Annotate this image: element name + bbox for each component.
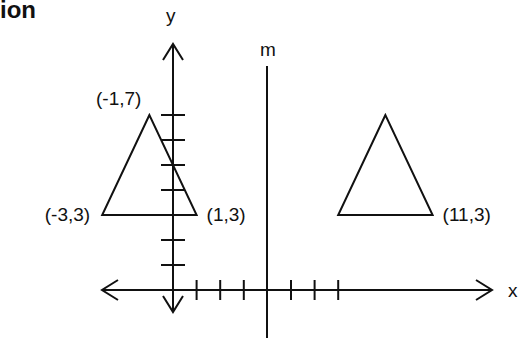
x-axis (102, 280, 492, 300)
triangle-image (338, 115, 432, 215)
title-fragment: ion (0, 0, 36, 23)
reflection-diagram: ion x y m (-1,7)(-3,3)(1,3)(11,3) (0, 0, 528, 345)
vertex-label: (-3,3) (45, 204, 90, 225)
vertex-label: (-1,7) (96, 88, 141, 109)
vertex-label: (11,3) (443, 204, 491, 225)
y-axis-label: y (166, 5, 176, 26)
vertex-label: (1,3) (207, 204, 246, 225)
mirror-line-label: m (260, 39, 276, 60)
x-axis-label: x (508, 280, 518, 301)
